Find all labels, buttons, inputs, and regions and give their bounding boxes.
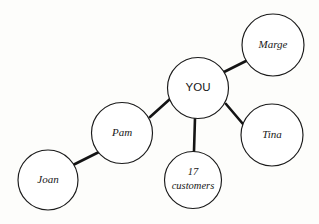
node-customers[interactable]: 17customers (165, 152, 222, 209)
node-label-joan: Joan (37, 173, 59, 185)
edge-you-to-tina (226, 104, 243, 124)
diagram-canvas: YOUMargeTinaPamJoan17customers (0, 0, 319, 224)
node-label-tina: Tina (262, 128, 282, 140)
node-joan[interactable]: Joan (18, 150, 78, 210)
edge-you-to-marge (224, 60, 248, 72)
node-you[interactable]: YOU (168, 58, 229, 119)
network-diagram: YOUMargeTinaPamJoan17customers (0, 0, 319, 224)
node-pam[interactable]: Pam (92, 103, 153, 164)
node-label-pam: Pam (111, 126, 132, 138)
edge-pam-to-joan (73, 152, 99, 165)
node-marge[interactable]: Marge (242, 14, 304, 76)
node-label-customers: customers (172, 180, 215, 191)
node-label-marge: Marge (258, 38, 288, 50)
node-label-customers: 17 (188, 166, 199, 177)
node-tina[interactable]: Tina (241, 104, 303, 166)
edge-you-to-customers (194, 118, 195, 151)
node-label-you: YOU (186, 81, 211, 93)
edge-you-to-pam (150, 99, 170, 117)
